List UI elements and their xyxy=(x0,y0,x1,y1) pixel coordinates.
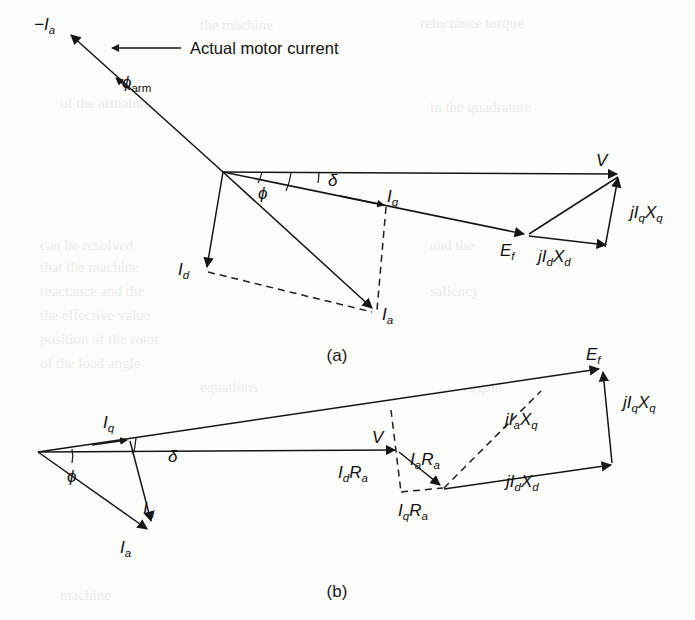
phasor-jiqxq-a xyxy=(605,178,618,247)
phasor-v-a xyxy=(223,172,617,174)
label-iara-b: IaRa xyxy=(410,450,440,471)
phasor-iq-a xyxy=(340,196,384,205)
svg-text:the effective value: the effective value xyxy=(40,307,151,323)
svg-text:equations: equations xyxy=(200,379,258,395)
label-iq-b: Iq xyxy=(103,413,115,434)
caption-b: (b) xyxy=(327,582,348,601)
svg-text:saliency: saliency xyxy=(430,283,480,299)
label-id-a: Id xyxy=(178,260,190,281)
phasor-id-a xyxy=(207,172,223,267)
label-phi-a: ϕ xyxy=(258,184,267,203)
svg-text:position of the rotor: position of the rotor xyxy=(40,331,160,347)
label-iqra-b: IqRa xyxy=(398,501,428,522)
label-ef-a: Ef xyxy=(500,241,516,262)
svg-text:and the: and the xyxy=(430,237,474,253)
svg-text:that the machine: that the machine xyxy=(40,259,139,275)
dashed-iq-to-ia-a xyxy=(377,207,386,310)
label-phi-arm-a: ϕarm xyxy=(122,73,151,94)
label-jiqxq-b: jIqXq xyxy=(621,393,656,414)
svg-text:machine: machine xyxy=(60,587,111,603)
label-ia-a: Ia xyxy=(382,305,393,326)
label-delta-a: δ xyxy=(328,171,338,190)
angle-arc-phi-a xyxy=(258,172,262,183)
label-idra-b: IdRa xyxy=(338,463,368,484)
svg-text:can be resolved: can be resolved xyxy=(40,237,134,253)
phasor-v-b xyxy=(38,450,395,452)
phasor-ef-b xyxy=(38,369,599,452)
svg-text:reactance and the: reactance and the xyxy=(40,283,144,299)
angle-arc-phi-b xyxy=(72,449,73,463)
closing-line-ef-v-a xyxy=(529,177,618,234)
dashed-idra-b xyxy=(391,410,401,492)
svg-text:of the armature: of the armature xyxy=(60,95,152,111)
phasor-ia-a xyxy=(223,172,372,308)
svg-text:in the quadrature: in the quadrature xyxy=(430,99,532,115)
label-actual-motor-current: Actual motor current xyxy=(190,39,339,57)
figure-page: the machine reluctance torque of the arm… xyxy=(0,0,695,620)
label-phi-b: ϕ xyxy=(67,467,76,486)
label-id-b: Id xyxy=(143,499,155,520)
dashed-iqra-b xyxy=(401,488,443,492)
page-bleed-through: the machine reluctance torque of the arm… xyxy=(40,15,532,603)
label-jidxd-b: jIdXd xyxy=(504,472,539,493)
phasor-diagram-figure: the machine reluctance torque of the arm… xyxy=(0,0,695,620)
caption-a: (a) xyxy=(327,346,348,365)
phasor-ia-b xyxy=(38,452,147,529)
label-v-b: V xyxy=(372,428,385,447)
label-ia-b: Ia xyxy=(120,538,131,559)
label-iq-a: Iq xyxy=(387,187,399,208)
angle-arc-delta-b xyxy=(133,438,136,455)
dashed-id-to-ia-a xyxy=(208,272,372,312)
label-neg-ia-a: −Ia xyxy=(34,15,55,36)
angle-arc-phi-outer-a xyxy=(286,173,291,191)
label-jidxd-a: jIdXd xyxy=(536,247,571,268)
label-ef-b: Ef xyxy=(586,345,602,366)
angle-arc-delta-a xyxy=(318,173,319,183)
label-delta-b: δ xyxy=(168,447,178,466)
svg-text:the machine: the machine xyxy=(200,17,273,33)
label-jiaxq-b: jIaXq xyxy=(503,410,538,431)
label-v-a: V xyxy=(596,151,609,170)
label-jiqxq-a: jIqXq xyxy=(628,203,663,224)
diagram-b: Iq ϕ δ Id Ia V IaRa IdRa IqRa jIaXq xyxy=(38,345,656,601)
svg-text:of the load angle: of the load angle xyxy=(40,355,141,371)
svg-text:reluctance torque: reluctance torque xyxy=(420,15,524,31)
phasor-jiqxq-b xyxy=(603,372,612,463)
phasor-jidxd-a xyxy=(529,236,606,245)
